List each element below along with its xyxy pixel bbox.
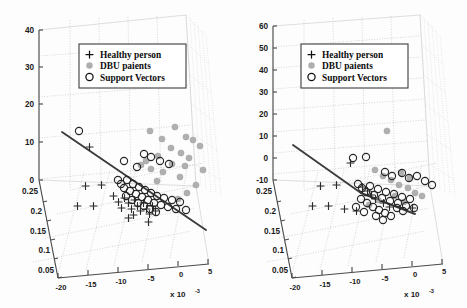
y-tick-label: 10 (25, 138, 35, 147)
legend-label: DBU paients (100, 61, 151, 71)
y-tick-label: 20 (259, 110, 269, 119)
exponent-power: -3 (429, 288, 434, 294)
series-support-vectors-left (75, 127, 189, 215)
z-tick-label: 0.25 (22, 187, 38, 196)
legend-label: DBU paients (322, 61, 373, 71)
x-tick-label: -10 (350, 277, 361, 286)
z-tick-label: 0.2 (265, 207, 277, 216)
y-tick-label: 60 (259, 22, 269, 31)
x-tick-label: 5 (442, 267, 447, 276)
figure-container: 40 30 20 10 0 0.25 0.2 0.15 0.1 0.05 -20… (0, 0, 467, 308)
x-tick-label: -5 (148, 274, 156, 283)
y-tick-label: 50 (259, 44, 269, 53)
y-tick-label: 10 (259, 132, 269, 141)
series-healthy-left (74, 144, 159, 226)
legend-label: Healthy person (100, 50, 162, 60)
z-axis-tick-labels-left: 0.25 0.2 0.15 0.1 0.05 (22, 187, 54, 275)
z-tick-label: 0.2 (31, 207, 43, 216)
x-tick-label: 0 (413, 270, 417, 279)
z-axis-tick-labels-right: 0.25 0.2 0.15 0.1 0.05 (256, 187, 288, 275)
y-axis-tick-labels-left: 40 30 20 10 0 (25, 26, 35, 185)
scatter-plot-left: 40 30 20 10 0 0.25 0.2 0.15 0.1 0.05 -20… (0, 0, 233, 308)
scatter-plot-right: 60 50 40 30 20 10 0 -10 0.25 0.2 0.15 0.… (234, 0, 467, 308)
z-tick-label: 0.05 (272, 266, 288, 275)
exponent-power: -3 (195, 288, 200, 294)
x-tick-label: -20 (290, 283, 301, 292)
y-axis-tick-labels-right: 60 50 40 30 20 10 0 -10 (256, 22, 268, 185)
filled-dot-marker-icon (86, 62, 92, 68)
y-tick-label: 30 (259, 88, 269, 97)
y-tick-label: 0 (29, 176, 34, 185)
x-axis-exponent-label-left: x 10 -3 (170, 288, 200, 299)
series-dbu-right (366, 128, 425, 208)
x-tick-label: -20 (56, 283, 67, 292)
legend-label: Support Vectors (322, 73, 387, 83)
x-tick-label: -15 (320, 280, 332, 289)
x-tick-label: 5 (208, 267, 213, 276)
x-tick-label: -15 (86, 280, 98, 289)
z-tick-label: 0.1 (273, 246, 285, 255)
floor-grid-left (33, 163, 203, 274)
x-tick-label: 0 (179, 270, 183, 279)
y-tick-label: 40 (259, 66, 269, 75)
z-tick-label: 0.1 (39, 246, 51, 255)
z-tick-label: 0.25 (256, 187, 272, 196)
y-tick-label: -10 (256, 176, 268, 185)
x-tick-label: -5 (382, 274, 390, 283)
exponent-base: x 10 (404, 290, 420, 299)
z-tick-label: 0.15 (264, 227, 280, 236)
y-tick-label: 30 (25, 63, 35, 72)
x-axis-exponent-label-right: x 10 -3 (404, 288, 434, 299)
legend-label: Healthy person (322, 50, 384, 60)
z-tick-label: 0.15 (30, 227, 46, 236)
y-tick-label: 20 (25, 100, 35, 109)
legend-left: Healthy person DBU paients Support Vecto… (79, 44, 186, 88)
y-tick-label: 0 (263, 154, 268, 163)
legend-right: Healthy person DBU paients Support Vecto… (301, 44, 408, 88)
y-tick-label: 40 (25, 26, 35, 35)
x-tick-label: -10 (116, 277, 127, 286)
z-tick-label: 0.05 (38, 266, 54, 275)
legend-label: Support Vectors (100, 73, 165, 83)
exponent-base: x 10 (170, 290, 186, 299)
filled-dot-marker-icon (308, 62, 314, 68)
